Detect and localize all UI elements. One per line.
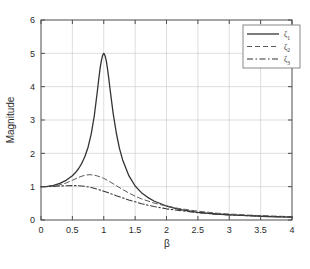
x-tick-label: 3.5 (254, 225, 267, 235)
x-tick-label: 4 (289, 225, 294, 235)
figure-canvas: 00.511.522.533.54 0123456 β Magnitude ζ1… (0, 0, 310, 269)
legend-subscript-2: 2 (287, 47, 290, 53)
legend: ζ1ζ2ζ3 (243, 25, 300, 68)
legend-subscript-3: 3 (287, 60, 290, 66)
x-tick-label: 1 (101, 225, 106, 235)
x-tick-label: 0.5 (66, 225, 79, 235)
legend-subscript-1: 1 (287, 35, 290, 41)
y-tick-label: 3 (30, 115, 35, 125)
y-axis-title: Magnitude (5, 96, 16, 143)
x-tick-label: 1.5 (129, 225, 142, 235)
x-tick-label: 0 (38, 225, 43, 235)
magnification-factor-chart: 00.511.522.533.54 0123456 β Magnitude ζ1… (0, 0, 310, 269)
y-tick-label: 6 (30, 15, 35, 25)
x-tick-labels: 00.511.522.533.54 (38, 225, 294, 235)
x-axis-title: β (164, 238, 170, 249)
y-tick-label: 5 (30, 49, 35, 59)
x-tick-label: 2.5 (192, 225, 205, 235)
y-tick-label: 0 (30, 215, 35, 225)
y-tick-label: 2 (30, 149, 35, 159)
y-tick-label: 1 (30, 182, 35, 192)
x-tick-label: 3 (227, 225, 232, 235)
x-tick-label: 2 (164, 225, 169, 235)
y-tick-label: 4 (30, 82, 35, 92)
